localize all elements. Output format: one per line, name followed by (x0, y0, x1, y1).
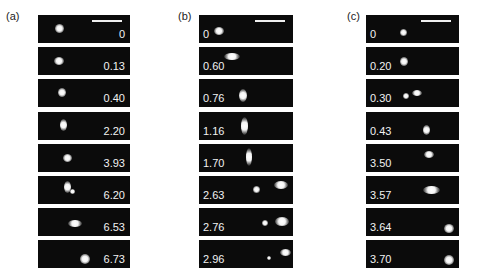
frame-time-label: 2.96 (203, 253, 224, 265)
micrograph-frame: 3.50 (366, 144, 459, 172)
micrograph-frame: 0 (38, 15, 130, 43)
fluorescent-particle (412, 90, 422, 96)
fluorescent-particle (55, 24, 64, 33)
fluorescent-particle (262, 220, 268, 226)
frame-time-label: 6.20 (104, 189, 125, 201)
frame-time-label: 3.70 (370, 253, 391, 265)
micrograph-frame: 1.70 (199, 144, 293, 172)
fluorescent-particle (58, 88, 66, 97)
frame-time-label: 3.93 (104, 157, 125, 169)
fluorescent-particle (60, 119, 67, 131)
fluorescent-particle (214, 27, 224, 35)
frame-time-label: 1.70 (203, 157, 224, 169)
scale-bar (255, 20, 285, 22)
micrograph-frame: 0.30 (366, 79, 459, 107)
micrograph-frame: 3.57 (366, 176, 459, 204)
frame-time-label: 0.60 (203, 60, 224, 72)
panel-label-b: (b) (178, 10, 191, 22)
micrograph-frame: 0.43 (366, 112, 459, 140)
micrograph-frame: 6.20 (38, 176, 130, 204)
frame-time-label: 0 (203, 28, 209, 40)
frame-time-label: 0.43 (370, 125, 391, 137)
micrograph-frame: 6.73 (38, 240, 130, 268)
micrograph-frame: 6.53 (38, 208, 130, 236)
micrograph-frame: 2.96 (199, 240, 293, 268)
fluorescent-particle (68, 220, 82, 227)
micrograph-frame: 2.20 (38, 112, 130, 140)
fluorescent-particle (54, 57, 64, 65)
micrograph-frame: 0.20 (366, 47, 459, 75)
frame-time-label: 0 (119, 28, 125, 40)
fluorescent-particle (224, 53, 240, 60)
fluorescent-particle (267, 256, 271, 260)
fluorescent-particle (241, 117, 248, 135)
micrograph-frame: 2.63 (199, 176, 293, 204)
frame-time-label: 3.57 (370, 189, 391, 201)
frame-time-label: 3.64 (370, 221, 391, 233)
scale-bar (421, 20, 451, 22)
micrograph-frame: 2.76 (199, 208, 293, 236)
micrograph-frame: 0.60 (199, 47, 293, 75)
fluorescent-particle (280, 249, 291, 256)
panel-label-c: (c) (347, 10, 360, 22)
fluorescent-particle (444, 255, 454, 265)
fluorescent-particle (70, 189, 75, 194)
micrograph-frame: 0.40 (38, 79, 130, 107)
frame-time-label: 0.13 (104, 60, 125, 72)
fluorescent-particle (444, 224, 454, 233)
frame-time-label: 1.16 (203, 125, 224, 137)
fluorescent-particle (253, 186, 260, 193)
frame-time-label: 2.63 (203, 189, 224, 201)
micrograph-frame: 0 (366, 15, 459, 43)
micrograph-frame: 3.64 (366, 208, 459, 236)
frame-time-label: 3.50 (370, 157, 391, 169)
micrograph-frame: 3.70 (366, 240, 459, 268)
frame-time-label: 6.53 (104, 221, 125, 233)
fluorescent-particle (63, 154, 72, 162)
frame-time-label: 2.76 (203, 221, 224, 233)
frame-time-label: 0.30 (370, 92, 391, 104)
micrograph-frame: 1.16 (199, 112, 293, 140)
fluorescent-particle (246, 148, 252, 166)
frame-time-label: 2.20 (104, 125, 125, 137)
fluorescent-particle (275, 217, 289, 226)
frame-time-label: 0.20 (370, 60, 391, 72)
frame-time-label: 0.40 (104, 92, 125, 104)
fluorescent-particle (403, 93, 409, 99)
frame-time-label: 0.76 (203, 92, 224, 104)
micrograph-frame: 0.13 (38, 47, 130, 75)
fluorescent-particle (400, 29, 407, 36)
micrograph-frame: 0 (199, 15, 293, 43)
scale-bar (92, 20, 122, 22)
fluorescent-particle (239, 89, 247, 102)
fluorescent-particle (80, 254, 90, 264)
frame-time-label: 0 (370, 28, 376, 40)
frame-time-label: 6.73 (104, 253, 125, 265)
micrograph-frame: 0.76 (199, 79, 293, 107)
fluorescent-particle (274, 181, 288, 189)
fluorescent-particle (423, 186, 440, 194)
panel-label-a: (a) (6, 10, 19, 22)
fluorescent-particle (424, 151, 434, 158)
micrograph-frame: 3.93 (38, 144, 130, 172)
fluorescent-particle (400, 57, 408, 66)
fluorescent-particle (423, 125, 430, 135)
